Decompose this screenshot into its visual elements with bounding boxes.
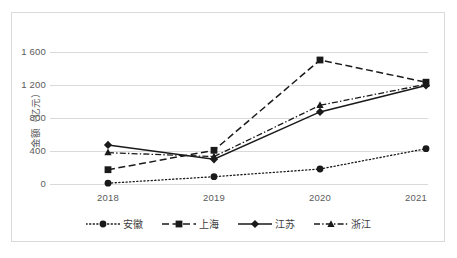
legend-marker-square-icon: [162, 219, 196, 229]
series-jiangsu-line: [108, 86, 426, 160]
legend-marker-triangle-icon: [314, 219, 348, 229]
legend-label-anhui: 安徽: [123, 216, 143, 231]
point-anhui-2021: [423, 145, 430, 152]
line-chart: 金额（亿元） 1 600 1 200 800 400 0 2018 2019 2…: [0, 0, 457, 258]
point-jiangsu-2018: [104, 141, 112, 149]
legend-label-jiangsu: 江苏: [275, 216, 295, 231]
point-jiangsu-2020: [316, 108, 324, 116]
series-zhejiang-line: [108, 84, 426, 156]
legend-label-zhejiang: 浙江: [351, 216, 371, 231]
legend-item-zhejiang[interactable]: 浙江: [314, 216, 371, 231]
legend-item-anhui[interactable]: 安徽: [86, 216, 143, 231]
x-tick-2018: 2018: [83, 192, 133, 203]
legend-label-shanghai: 上海: [199, 216, 219, 231]
point-anhui-2019: [211, 173, 218, 180]
gridlines: [50, 53, 428, 185]
y-tick-400: 400: [0, 145, 46, 156]
x-tick-2020: 2020: [295, 192, 345, 203]
legend-marker-diamond-icon: [238, 219, 272, 229]
y-tick-1600: 1 600: [0, 46, 46, 57]
chart-legend: 安徽 上海 江苏 浙江: [11, 216, 445, 231]
point-anhui-2020: [317, 166, 324, 173]
series-shanghai: [105, 57, 430, 174]
y-tick-800: 800: [0, 112, 46, 123]
point-shanghai-2018: [105, 166, 112, 173]
x-tick-2021: 2021: [391, 192, 441, 203]
y-tick-0: 0: [0, 178, 46, 189]
y-tick-1200: 1 200: [0, 79, 46, 90]
legend-item-shanghai[interactable]: 上海: [162, 216, 219, 231]
x-tick-2019: 2019: [189, 192, 239, 203]
legend-marker-circle-icon: [86, 219, 120, 229]
series-zhejiang: [104, 80, 429, 159]
series-shanghai-line: [108, 60, 426, 170]
legend-item-jiangsu[interactable]: 江苏: [238, 216, 295, 231]
point-shanghai-2020: [317, 57, 324, 64]
point-anhui-2018: [105, 180, 112, 187]
